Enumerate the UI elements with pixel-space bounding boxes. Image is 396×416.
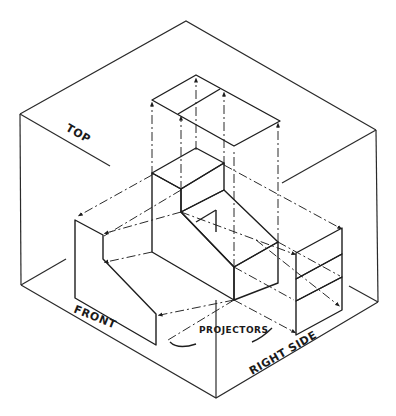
- glass-box-diagram: TOP FRONT PROJECTORS RIGHT SIDE: [0, 0, 396, 416]
- isometric-object: [152, 148, 278, 300]
- top-view: [152, 75, 280, 146]
- right-side-view: [296, 228, 342, 335]
- label-right-side: RIGHT SIDE: [247, 328, 319, 377]
- label-projectors: PROJECTORS: [199, 325, 268, 335]
- projector-lines: [80, 80, 340, 340]
- glass-box-outline: [20, 21, 378, 398]
- label-front: FRONT: [72, 303, 118, 332]
